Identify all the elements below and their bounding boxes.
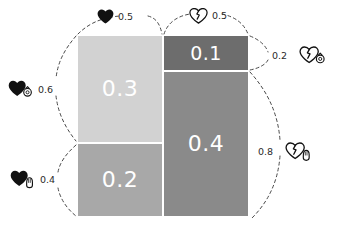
tile-broken-hand[interactable]: 0.4: [164, 72, 248, 216]
bracket-label-left-lower: 0.4: [10, 170, 55, 189]
heart-filled-hand-icon: [10, 170, 36, 189]
heart-filled-ring-icon: [8, 80, 34, 99]
heart-broken-hand-icon: [285, 142, 313, 162]
bracket-value-top-right: 0.5: [212, 11, 227, 21]
arc-right-lower-b: [252, 156, 280, 218]
heart-broken-icon: [189, 8, 208, 24]
arc-top-left-b: [148, 16, 162, 34]
mosaic-plot-figure: 0.3 0.1 0.2 0.4 0.5 0.5: [0, 0, 337, 232]
bracket-value-right-lower: 0.8: [258, 147, 273, 157]
bracket-label-right-upper: 0.2: [272, 46, 327, 66]
arc-right-upper-a: [250, 36, 268, 52]
bracket-value-top-left: 0.5: [118, 12, 133, 22]
bracket-value-left-upper: 0.6: [38, 85, 53, 95]
arc-right-lower-a: [250, 72, 280, 140]
tile-value-heart-hand: 0.2: [102, 169, 139, 191]
tile-value-broken-hand: 0.4: [188, 133, 225, 155]
bracket-label-top-right: 0.5: [189, 8, 227, 24]
arc-left-upper-a: [56, 36, 76, 78]
bracket-label-left-upper: 0.6: [8, 80, 53, 99]
tile-broken-ring[interactable]: 0.1: [164, 36, 248, 70]
arc-right-upper-b: [250, 60, 268, 70]
bracket-label-right-lower: 0.8: [258, 142, 313, 162]
arc-left-upper-b: [56, 96, 76, 141]
tile-heart-hand[interactable]: 0.2: [78, 144, 162, 216]
heart-filled-icon: [97, 9, 114, 24]
arc-left-lower-a: [58, 145, 76, 172]
arc-top-right-a: [164, 14, 190, 34]
bracket-value-right-upper: 0.2: [272, 51, 287, 61]
tile-heart-ring[interactable]: 0.3: [78, 36, 162, 142]
heart-broken-ring-icon: [299, 46, 327, 66]
tile-value-broken-ring: 0.1: [190, 44, 222, 63]
bracket-value-left-lower: 0.4: [40, 175, 55, 185]
tile-value-heart-ring: 0.3: [102, 78, 139, 100]
bracket-label-top-left: 0.5: [97, 9, 133, 24]
arc-left-lower-b: [58, 188, 76, 216]
